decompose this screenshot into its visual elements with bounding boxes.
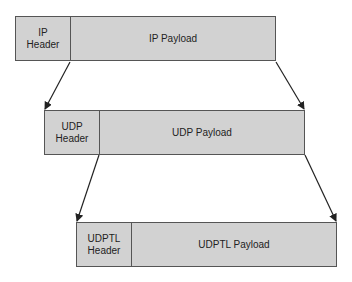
udp-payload: UDP Payload (100, 111, 304, 154)
udp-header: UDP Header (45, 111, 100, 154)
ip-packet: IP Header IP Payload (15, 16, 276, 61)
udptl-packet: UDPTL Header UDPTL Payload (76, 222, 337, 267)
udptl-payload: UDPTL Payload (132, 223, 336, 266)
arrow-udp-to-udptl-left (77, 155, 99, 221)
arrow-ip-to-udp-right (276, 62, 304, 109)
ip-payload: IP Payload (71, 17, 275, 60)
arrow-udp-to-udptl-right (305, 155, 336, 221)
ip-header: IP Header (16, 17, 71, 60)
arrow-ip-to-udp-left (45, 62, 70, 109)
udptl-header: UDPTL Header (77, 223, 132, 266)
udp-packet: UDP Header UDP Payload (44, 110, 305, 155)
